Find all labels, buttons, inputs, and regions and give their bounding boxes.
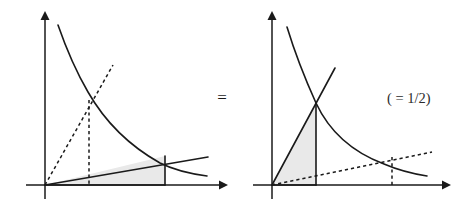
left-hyperbola-curve <box>58 25 207 176</box>
value-annotation: ( = 1/2) <box>387 90 431 107</box>
figure-root: = ( = 1/2) <box>0 0 472 210</box>
relation-symbol: = <box>217 88 227 107</box>
left-steep-secant-dashed-line <box>45 65 113 185</box>
right-x-axis-arrow-icon <box>442 181 451 190</box>
figure-canvas: = ( = 1/2) <box>0 0 472 210</box>
left-x-axis-arrow-icon <box>219 181 228 190</box>
right-y-axis-arrow-icon <box>268 11 277 20</box>
left-shaded-region <box>45 156 165 185</box>
left-y-axis-arrow-icon <box>41 11 50 20</box>
left-panel <box>26 11 228 199</box>
